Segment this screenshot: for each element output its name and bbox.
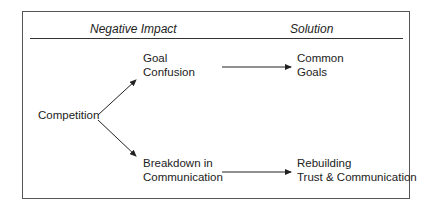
arrows-layer [0, 0, 431, 215]
arrow-competition-to-goal-confusion [98, 80, 136, 115]
arrow-competition-to-breakdown [98, 120, 136, 156]
